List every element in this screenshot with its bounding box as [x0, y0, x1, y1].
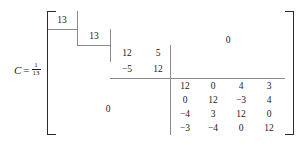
lower-left-zero-label: 0 — [106, 105, 111, 115]
matrix-cell: 12 — [180, 82, 190, 92]
right-bracket — [285, 11, 294, 135]
partition-line-v1 — [77, 11, 78, 45]
matrix-cell: 12 — [122, 49, 132, 59]
matrix-cell: 0 — [211, 82, 216, 92]
matrix-cell: 0 — [239, 124, 244, 134]
fraction-denominator: 13 — [32, 70, 41, 77]
partition-line-h4 — [170, 78, 285, 79]
matrix-cell: −3 — [180, 124, 190, 134]
matrix-cell: 5 — [156, 49, 161, 59]
matrix-cell: 4 — [267, 96, 272, 106]
equals-sign: = — [23, 64, 29, 76]
matrix-cell: 4 — [239, 82, 244, 92]
fraction-numerator: 1 — [33, 62, 39, 69]
matrix-cell: 12 — [236, 110, 246, 120]
matrix-cell: 12 — [208, 96, 218, 106]
partition-line-h3 — [110, 78, 170, 79]
matrix-cell: 0 — [267, 110, 272, 120]
partition-line-h1 — [48, 29, 77, 30]
matrix-cell: 13 — [57, 16, 67, 26]
matrix-cell: −3 — [236, 96, 246, 106]
equation-label: C = 1 13 — [14, 62, 41, 77]
matrix-cell: 3 — [267, 82, 272, 92]
matrix-cell: −5 — [122, 65, 132, 75]
scalar-fraction: 1 13 — [32, 62, 41, 77]
matrix-cell: 12 — [153, 65, 163, 75]
partition-line-h2 — [77, 45, 110, 46]
matrix-variable-c: C — [14, 64, 21, 76]
matrix-cell: 0 — [183, 96, 188, 106]
matrix-cell: 3 — [211, 110, 216, 120]
matrix-cell: −4 — [180, 110, 190, 120]
partition-line-v2 — [110, 29, 111, 62]
matrix-cell: 12 — [264, 124, 274, 134]
upper-right-zero-label: 0 — [226, 36, 231, 46]
partition-line-v3 — [170, 45, 171, 135]
matrix-figure: C = 1 13 13 13 12 5 −5 12 12 0 4 3 0 12 … — [0, 0, 304, 147]
matrix-cell: 13 — [89, 32, 99, 42]
matrix-cell: −4 — [208, 124, 218, 134]
